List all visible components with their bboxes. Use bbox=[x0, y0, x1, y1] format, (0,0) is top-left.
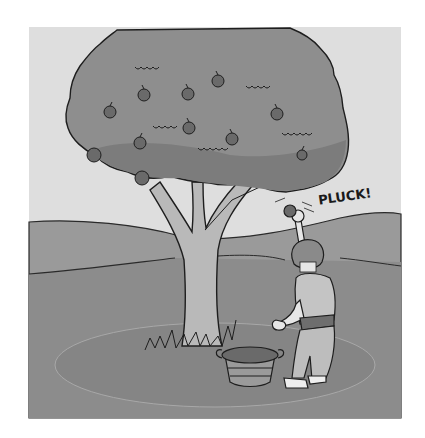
plucked-apple bbox=[284, 205, 296, 217]
illustration bbox=[0, 0, 425, 438]
